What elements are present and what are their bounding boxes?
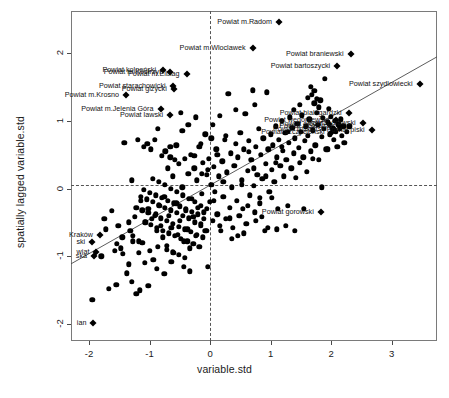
y-tick-label: 1 (53, 115, 65, 126)
point-label: Powiat m.Wloclawek (180, 44, 249, 51)
y-axis-title: spatially lagged variable.std (14, 116, 26, 248)
x-tick-mark (89, 341, 90, 345)
point-label: Powiat piski (327, 127, 368, 134)
plot-data-area (71, 11, 437, 341)
y-tick-label: -2 (53, 318, 65, 329)
x-tick-label: 3 (389, 348, 394, 359)
x-tick-mark (150, 341, 151, 345)
x-tick-mark (331, 341, 332, 345)
x-axis-title: variable.std (0, 363, 449, 375)
point-label: Powiat gizycki (122, 85, 170, 92)
point-label: Powiat gorowski (262, 208, 317, 215)
point-label: Powiat szydlowiecki (349, 81, 416, 88)
x-tick-label: 1 (268, 348, 273, 359)
y-tick-mark (67, 256, 71, 257)
x-tick-mark (210, 341, 211, 345)
point-label: Powiat braniewski (286, 51, 347, 58)
y-tick-mark (67, 121, 71, 122)
point-label: Powiat lawski (120, 111, 166, 118)
x-tick-label: -1 (145, 348, 153, 359)
point-label: Powiat m.Elblag (128, 70, 183, 77)
y-tick-label: 0 (53, 183, 65, 194)
y-tick-mark (67, 189, 71, 190)
x-tick-label: 0 (207, 348, 212, 359)
x-tick-mark (392, 341, 393, 345)
point-label: Powiat szczycienski (261, 128, 328, 135)
point-label: Powiat m.Radom (217, 18, 275, 25)
moran-scatterplot: -2-10123 -2-1012 variable.std spatially … (0, 0, 449, 398)
y-tick-label: 2 (53, 47, 65, 58)
y-tick-mark (67, 53, 71, 54)
x-tick-label: 2 (328, 348, 333, 359)
point-label: ska (76, 253, 90, 260)
x-tick-label: -2 (85, 348, 93, 359)
point-label: Powiat bartoszycki (271, 62, 334, 69)
point-label: Powiat m.Krosno (65, 91, 122, 98)
point-label: ski (76, 238, 88, 245)
x-tick-mark (271, 341, 272, 345)
y-tick-label: -1 (53, 250, 65, 261)
y-tick-mark (67, 324, 71, 325)
point-label: ian (77, 319, 90, 326)
